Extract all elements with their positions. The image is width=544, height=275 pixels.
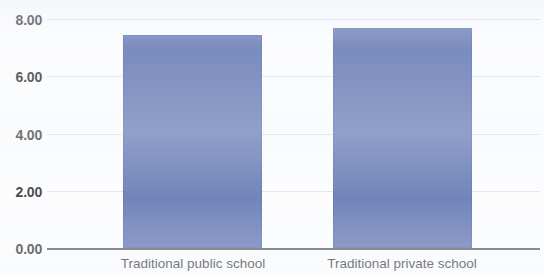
x-tick-label-traditional-private-school: Traditional private school [302, 256, 502, 272]
y-tick-label-6: 6.00 [0, 70, 42, 84]
y-axis-tick-labels: 8.00 6.00 4.00 2.00 0.00 [0, 0, 42, 275]
x-axis-line [47, 248, 540, 250]
gridline-8 [47, 19, 540, 20]
plot-area [47, 19, 540, 248]
bar-traditional-public-school[interactable] [123, 35, 262, 248]
bar-traditional-private-school[interactable] [333, 28, 472, 248]
bar-chart-figure: 8.00 6.00 4.00 2.00 0.00 Traditional pub… [0, 0, 544, 275]
x-axis-tick-labels: Traditional public school Traditional pr… [0, 256, 544, 275]
x-tick-label-traditional-public-school: Traditional public school [93, 256, 293, 272]
y-tick-label-8: 8.00 [0, 13, 42, 27]
y-tick-label-2: 2.00 [0, 185, 42, 199]
y-tick-label-4: 4.00 [0, 128, 42, 142]
y-tick-label-0: 0.00 [0, 242, 42, 256]
